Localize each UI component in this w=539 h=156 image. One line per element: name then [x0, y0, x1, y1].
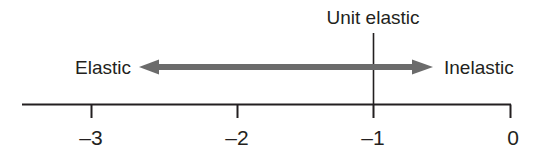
tick-label-zero: 0: [507, 126, 519, 149]
arrow-head-left-icon: [139, 60, 159, 75]
inelastic-label: Inelastic: [444, 57, 514, 78]
tick-label-minus-2: –2: [225, 126, 248, 149]
tick-label-minus-3: –3: [79, 126, 102, 149]
tick-label-minus-1: –1: [361, 126, 384, 149]
figure-canvas: Unit elastic Elastic Inelastic –3 –2 –1 …: [0, 0, 539, 156]
elasticity-number-line-figure: Unit elastic Elastic Inelastic –3 –2 –1 …: [0, 0, 539, 156]
unit-elastic-label: Unit elastic: [327, 7, 420, 28]
elastic-label: Elastic: [75, 57, 131, 78]
arrow-head-right-icon: [412, 60, 433, 75]
